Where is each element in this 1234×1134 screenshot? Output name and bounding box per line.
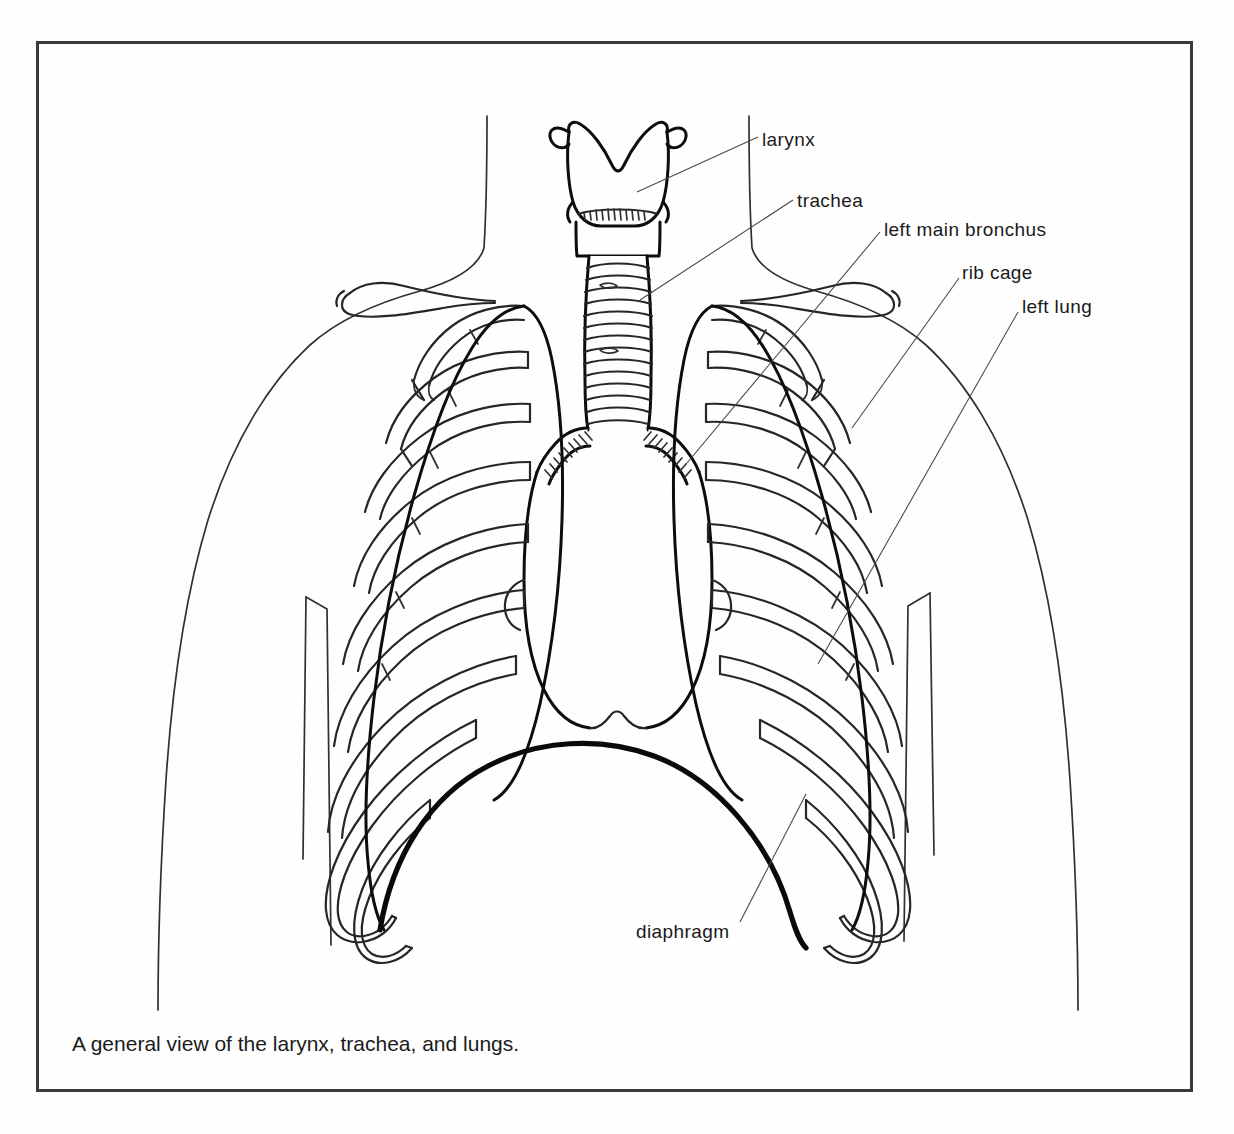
figure-caption: A general view of the larynx, trachea, a… (72, 1032, 519, 1056)
label-larynx: larynx (762, 129, 815, 151)
figure-border (36, 41, 1193, 1092)
label-trachea: trachea (797, 190, 863, 212)
label-left-lung: left lung (1022, 296, 1092, 318)
figure-root: .ln { fill:none; stroke:#262626; stroke-… (0, 0, 1234, 1134)
label-left-main-bronchus: left main bronchus (884, 219, 1046, 241)
label-diaphragm: diaphragm (636, 921, 729, 943)
label-rib-cage: rib cage (962, 262, 1033, 284)
